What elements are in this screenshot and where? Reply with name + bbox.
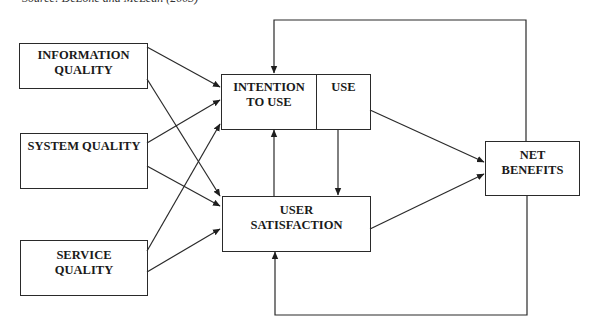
- arrow-info-to-intention: [147, 47, 220, 87]
- label-system-quality: SYSTEM QUALITY: [21, 139, 147, 154]
- box-service-quality: SERVICE QUALITY: [20, 240, 148, 296]
- label-net-benefits-1: NET: [486, 148, 579, 163]
- label-intention-2: TO USE: [222, 95, 316, 110]
- label-user-satisfaction-2: SATISFACTION: [223, 218, 370, 233]
- box-information-quality: INFORMATION QUALITY: [19, 43, 148, 89]
- box-user-satisfaction: USER SATISFACTION: [222, 196, 371, 252]
- arrow-satisfaction-to-netbenefits: [370, 174, 484, 229]
- arrow-info-to-satisfaction: [147, 79, 220, 196]
- label-use: USE: [317, 80, 370, 95]
- arrow-use-to-netbenefits: [370, 110, 484, 162]
- label-service-quality-1: SERVICE: [21, 248, 147, 263]
- arrow-service-to-intention: [147, 124, 220, 251]
- label-information-quality-1: INFORMATION: [20, 48, 147, 63]
- box-net-benefits: NET BENEFITS: [485, 141, 580, 196]
- label-net-benefits-2: BENEFITS: [486, 163, 579, 178]
- label-service-quality-2: QUALITY: [21, 263, 147, 278]
- box-intention-to-use: INTENTION TO USE: [221, 74, 317, 130]
- arrow-system-to-satisfaction: [147, 166, 220, 206]
- arrow-service-to-satisfaction: [147, 229, 220, 272]
- box-use: USE: [316, 74, 371, 130]
- label-intention-1: INTENTION: [222, 80, 316, 95]
- label-information-quality-2: QUALITY: [20, 63, 147, 78]
- label-user-satisfaction-1: USER: [223, 203, 370, 218]
- box-system-quality: SYSTEM QUALITY: [20, 133, 148, 189]
